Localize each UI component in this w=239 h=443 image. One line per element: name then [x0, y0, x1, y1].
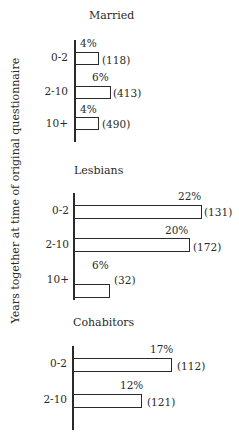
value-label: 12%	[120, 379, 143, 391]
category-label: 10+	[28, 117, 68, 129]
bar	[74, 238, 190, 252]
value-label: 6%	[92, 71, 109, 83]
value-label: 17%	[150, 343, 173, 355]
value-label: 22%	[178, 190, 201, 202]
sample-size: (112)	[177, 360, 205, 372]
panel-title: Lesbians	[74, 164, 123, 177]
y-axis-label: Years together at time of original quest…	[9, 134, 22, 324]
bar	[75, 117, 99, 130]
panel-title: Married	[89, 9, 134, 22]
value-label: 20%	[165, 224, 188, 236]
category-label: 2-10	[27, 393, 67, 405]
bar	[73, 394, 142, 408]
bar	[73, 358, 172, 372]
sample-size: (131)	[204, 206, 232, 218]
sample-size: (413)	[113, 87, 141, 99]
sample-size: (118)	[102, 54, 130, 66]
category-label: 0-2	[27, 357, 67, 369]
category-label: 2-10	[29, 238, 69, 250]
bar	[74, 205, 202, 219]
category-label: 0-2	[28, 51, 68, 63]
category-label: 10+	[29, 273, 69, 285]
sample-size: (490)	[102, 118, 130, 130]
category-label: 0-2	[29, 204, 69, 216]
value-label: 6%	[92, 259, 109, 271]
panel-title: Cohabitors	[73, 316, 134, 329]
value-label: 4%	[80, 37, 97, 49]
sample-size: (172)	[193, 241, 221, 253]
bar	[75, 52, 99, 65]
bar	[74, 284, 110, 298]
sample-size: (32)	[114, 274, 136, 286]
sample-size: (121)	[147, 396, 175, 408]
category-label: 2-10	[28, 85, 68, 97]
bar	[75, 86, 111, 99]
value-label: 4%	[80, 103, 97, 115]
